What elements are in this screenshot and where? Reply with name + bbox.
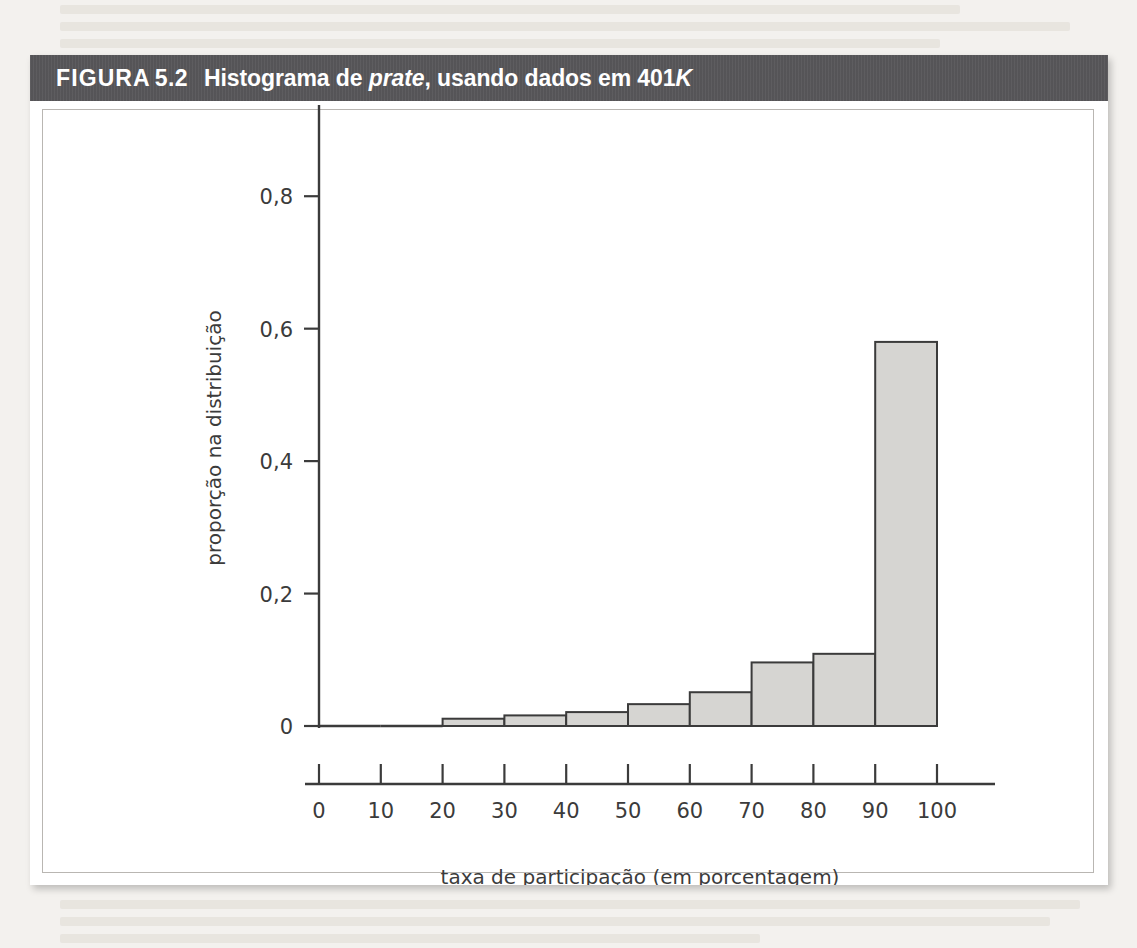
- background-text-line: [60, 22, 1070, 31]
- figure-label: FIGURA: [56, 65, 151, 91]
- figure-caption: Histograma de prate, usando dados em 401…: [204, 65, 692, 91]
- caption-italic-k: K: [675, 65, 692, 91]
- figure-number: 5.2: [155, 65, 188, 91]
- background-text-line: [60, 917, 1050, 926]
- figure-card: FIGURA5.2Histograma de prate, usando dad…: [30, 55, 1108, 885]
- plot-frame: [42, 109, 1094, 873]
- figure-title-text: FIGURA5.2Histograma de prate, usando dad…: [30, 65, 692, 92]
- caption-text-2: , usando dados em 401: [424, 65, 675, 91]
- caption-italic-prate: prate: [369, 65, 425, 91]
- background-text-line: [60, 900, 1080, 909]
- caption-text-1: Histograma de: [204, 65, 369, 91]
- background-text-line: [60, 39, 940, 48]
- background-text-line: [60, 934, 760, 943]
- figure-title-banner: FIGURA5.2Histograma de prate, usando dad…: [30, 55, 1108, 101]
- background-text-line: [60, 5, 960, 14]
